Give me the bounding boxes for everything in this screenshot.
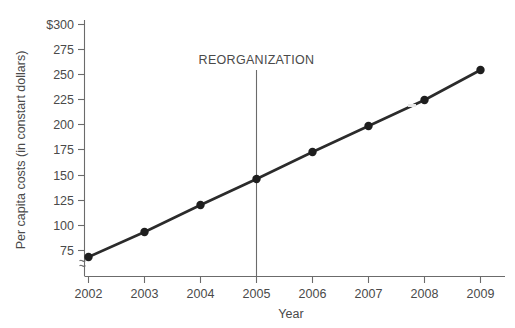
- x-tick-label-2002: 2002: [75, 287, 103, 301]
- data-point-2008[interactable]: [420, 96, 428, 104]
- y-tick-label-225: 225: [53, 93, 74, 107]
- y-tick-label-300: $300: [46, 18, 74, 32]
- y-tick-label-75: 75: [60, 244, 74, 258]
- data-point-2003[interactable]: [140, 228, 148, 236]
- y-tick-label-275: 275: [53, 43, 74, 57]
- x-tick-label-2009: 2009: [467, 287, 495, 301]
- x-axis-title: Year: [278, 307, 303, 321]
- y-tick-label-100: 100: [53, 219, 74, 233]
- x-tick-label-2004: 2004: [187, 287, 215, 301]
- x-tick-label-2005: 2005: [243, 287, 271, 301]
- x-tick-label-2008: 2008: [411, 287, 439, 301]
- y-tick-label-250: 250: [53, 68, 74, 82]
- y-tick-label-175: 175: [53, 143, 74, 157]
- x-tick-label-2007: 2007: [355, 287, 383, 301]
- chart-canvas: $300 275 250 225 200 175 150 125 100 75 …: [0, 0, 515, 328]
- y-axis-title: Per capita costs (in constart dollars): [14, 51, 28, 250]
- data-point-2005[interactable]: [252, 175, 260, 183]
- reorganization-annotation-label: REORGANIZATION: [199, 53, 315, 67]
- data-point-2009[interactable]: [476, 66, 484, 74]
- data-point-2002[interactable]: [84, 253, 92, 261]
- x-tick-label-2006: 2006: [299, 287, 327, 301]
- x-tick-label-2003: 2003: [131, 287, 159, 301]
- x-axis-ticks: [89, 277, 481, 284]
- y-axis-ticks: [78, 25, 85, 251]
- y-tick-label-200: 200: [53, 118, 74, 132]
- line-gap-artifact: [408, 104, 416, 107]
- data-point-markers: [84, 66, 484, 261]
- line-chart: $300 275 250 225 200 175 150 125 100 75 …: [0, 0, 515, 328]
- y-tick-label-125: 125: [53, 194, 74, 208]
- data-point-2004[interactable]: [196, 201, 204, 209]
- data-point-2007[interactable]: [364, 122, 372, 130]
- y-tick-label-150: 150: [53, 169, 74, 183]
- data-point-2006[interactable]: [308, 148, 316, 156]
